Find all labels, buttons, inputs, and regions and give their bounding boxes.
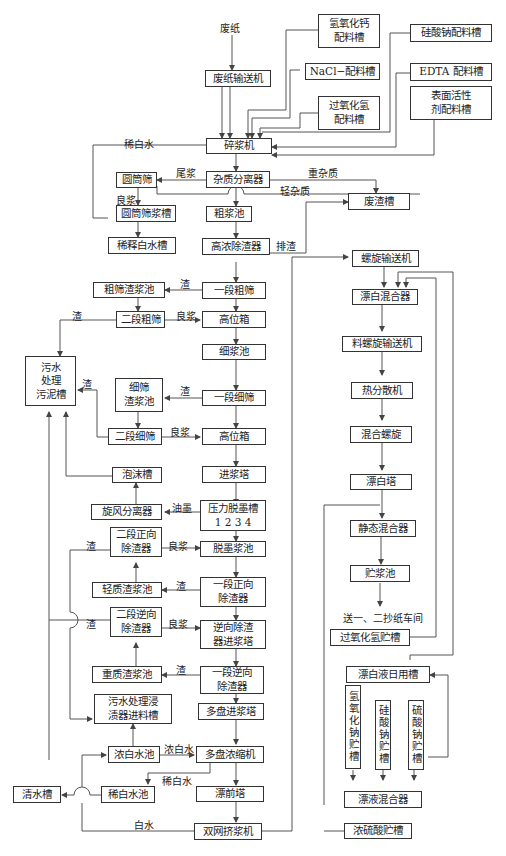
forward-cleaner-1: 一段正向 除渣器 — [200, 577, 266, 607]
label-whitewater: 白水 — [134, 817, 154, 832]
hd-cleaner: 高浓除渣器 — [202, 238, 270, 255]
bleach-liquor-day-tank: 漂白液日用槽 — [346, 666, 430, 683]
headbox-2: 高位箱 — [202, 428, 266, 445]
sodium-silicate-tank: 硅酸钠配料槽 — [410, 24, 492, 42]
label-accept-5: 良浆 — [168, 616, 188, 631]
twin-wire-press: 双网挤浆机 — [194, 823, 262, 840]
label-reject-out: 排渣 — [276, 238, 296, 253]
cyclone-separator: 旋风分离器 — [91, 504, 162, 520]
deinked-pulp-pool: 脱墨浆池 — [200, 541, 266, 557]
label-reject-c: 渣 — [82, 376, 92, 391]
fine-screen-1: 一段细筛 — [202, 390, 266, 406]
forward-cleaner-2: 二段正向 除渣器 — [110, 527, 162, 557]
coarse-screen-1: 一段粗筛 — [202, 282, 266, 299]
pressure-flotation-cell: 压力脱墨槽 1 2 3 4 — [200, 500, 266, 531]
waste-paper-conveyor: 废纸输送机 — [205, 70, 271, 87]
crude-pulp-pool: 粗浆池 — [206, 206, 252, 222]
label-heavy-impurity: 重杂质 — [308, 165, 338, 180]
reverse-cleaner-1: 一段逆向 除渣器 — [200, 666, 264, 694]
feed-tower: 进浆塔 — [202, 466, 266, 483]
label-ink: 油墨 — [172, 500, 192, 515]
fine-screen-2: 二段细筛 — [108, 428, 162, 445]
pre-bleach-tower: 漂前塔 — [196, 786, 264, 802]
label-reject-a: 渣 — [180, 276, 190, 291]
hydrogen-peroxide-tank: 过氧化氢 配料槽 — [318, 96, 380, 130]
drum-screen-chest: 圆筒筛浆槽 — [116, 205, 176, 222]
label-rich-whitewater: 浓白水 — [164, 741, 194, 756]
static-mixer: 静态混合器 — [350, 520, 416, 537]
label-reject-d: 渣 — [180, 383, 190, 398]
input-waste-paper: 废纸 — [220, 20, 240, 35]
coarse-reject-pool: 粗筛渣浆池 — [93, 282, 165, 298]
heat-disperser: 热分散机 — [351, 382, 413, 399]
label-reject-e: 渣 — [86, 538, 96, 553]
screw-conveyor: 螺旋输送机 — [352, 250, 419, 267]
disc-thickener: 多盘浓缩机 — [196, 746, 264, 763]
label-dilute-whitewater: 稀白水 — [124, 136, 154, 151]
edta-tank: EDTA 配料槽 — [410, 63, 492, 81]
coarse-screen-2: 二段粗筛 — [116, 311, 165, 328]
label-accept-4: 良浆 — [168, 538, 188, 553]
label-accept-3: 良浆 — [170, 424, 190, 439]
foam-tank: 泡沫槽 — [112, 467, 162, 483]
reverse-cleaner-feed-tower: 逆向除渣 器进浆塔 — [200, 620, 266, 649]
disc-feed-tower: 多盘进浆塔 — [198, 703, 264, 720]
label-lean-whitewater: 稀白水 — [162, 773, 192, 788]
bleach-liquor-mixer: 漂液混合器 — [344, 791, 422, 808]
headbox-1: 高位箱 — [202, 311, 266, 328]
h2o2-storage-tank: 过氧化氢贮槽 — [330, 629, 410, 646]
label-reject-b: 渣 — [72, 308, 82, 323]
nacl-tank: NaCl−配料槽 — [305, 63, 380, 80]
mixing-screw: 混合螺旋 — [350, 426, 412, 443]
label-tail-pulp: 尾浆 — [176, 165, 196, 180]
wastewater-impregnator-feed-tank: 污水处理浸 渍器进料槽 — [94, 694, 172, 724]
drum-screen: 圆筒筛 — [116, 172, 157, 188]
label-reject-f: 渣 — [176, 578, 186, 593]
label-reject-h: 渣 — [176, 662, 186, 677]
storage-pool: 贮浆池 — [350, 565, 410, 582]
sludge-tank: 污水 处理 污泥槽 — [25, 356, 76, 406]
waste-residue-tank: 废渣槽 — [348, 193, 410, 210]
bleach-mixer: 漂白混合器 — [352, 289, 418, 305]
label-accept-2: 良浆 — [176, 308, 196, 323]
clear-water-tank: 清水槽 — [13, 786, 61, 803]
lean-whitewater-pool: 稀白水池 — [101, 786, 155, 803]
dilution-water-tank: 稀释白水槽 — [108, 237, 176, 254]
to-paper-machines-label: 送一、二抄纸车间 — [343, 610, 423, 625]
rich-whitewater-pool: 浓白水池 — [108, 746, 160, 763]
calcium-hydroxide-tank: 氢氧化钙 配料槽 — [318, 14, 380, 48]
bleach-tower: 漂白塔 — [350, 474, 412, 490]
naoh-storage-tank: 氢氧化钠贮槽 — [345, 685, 361, 769]
fine-reject-pool: 细筛 渣浆池 — [115, 378, 163, 412]
surfactant-tank: 表面活性 剂配料槽 — [410, 86, 492, 120]
heavy-reject-pool: 重质渣浆池 — [92, 666, 162, 683]
pulper: 碎浆机 — [206, 138, 272, 154]
impurity-separator: 杂质分离器 — [206, 171, 270, 188]
label-reject-g: 渣 — [86, 616, 96, 631]
label-light-impurity: 轻杂质 — [280, 183, 310, 198]
concentrated-acid-storage-tank: 浓硫酸贮槽 — [344, 823, 412, 839]
sodium-sulfate-storage-tank: 硫酸钠贮槽 — [408, 700, 424, 770]
sodium-silicate-storage-tank: 硅酸钠贮槽 — [375, 700, 391, 770]
light-reject-pool: 轻质渣浆池 — [92, 582, 162, 598]
fine-pulp-pool: 细浆池 — [202, 344, 266, 360]
reverse-cleaner-2: 二段逆向 除渣器 — [110, 607, 162, 637]
label-accept-1: 良浆 — [116, 192, 136, 207]
feed-screw-conveyor: 料螺旋输送机 — [342, 336, 422, 352]
